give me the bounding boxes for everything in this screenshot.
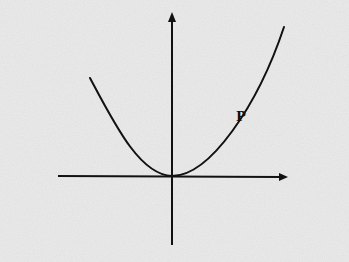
diagram-svg xyxy=(0,0,349,262)
paper-grain xyxy=(0,0,349,262)
diagram-canvas: P xyxy=(0,0,349,262)
curve-label: P xyxy=(236,109,246,124)
